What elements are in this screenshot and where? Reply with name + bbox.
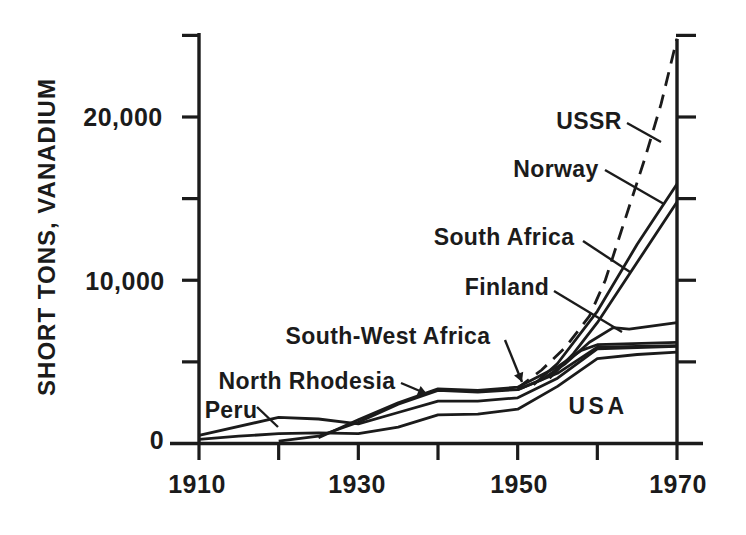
x-tick-label-1950: 1950 — [490, 470, 548, 499]
vanadium-production-chart: SHORT TONS, VANADIUM 20,000 10,000 0 191… — [0, 0, 746, 535]
series-label-finland: Finland — [465, 274, 550, 301]
y-tick-label-20000: 20,000 — [83, 103, 162, 132]
x-tick-label-1970: 1970 — [649, 470, 707, 499]
x-tick-label-1910: 1910 — [168, 470, 226, 499]
series-label-south-west-africa: South-West Africa — [286, 323, 491, 350]
y-tick-label-10000: 10,000 — [85, 267, 164, 296]
leader-south-africa — [583, 241, 630, 272]
x-tick-label-1930: 1930 — [328, 470, 386, 499]
series-line-finland — [518, 323, 677, 390]
y-tick-label-0: 0 — [150, 426, 164, 455]
series-label-south-africa: South Africa — [434, 224, 575, 251]
series-line-ussr — [518, 39, 677, 388]
series-label-peru: Peru — [205, 397, 258, 424]
series-label-north-rhodesia: North Rhodesia — [219, 368, 396, 395]
series-label-norway: Norway — [513, 156, 598, 183]
leader-finland — [554, 291, 622, 332]
series-label-ussr: USSR — [556, 108, 622, 135]
y-axis-title: SHORT TONS, VANADIUM — [33, 78, 61, 396]
leader-norway — [605, 170, 664, 204]
series-label-usa: USA — [568, 393, 627, 420]
